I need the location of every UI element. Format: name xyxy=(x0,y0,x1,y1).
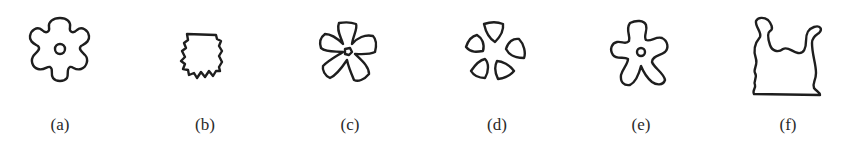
shape-a-rosette-icon xyxy=(27,15,93,87)
shape-e-wavy-star-icon xyxy=(608,18,676,94)
shape-c-flower-icon xyxy=(317,20,381,90)
shape-b-serrated-icon xyxy=(176,31,228,87)
label-b: (b) xyxy=(175,115,235,135)
label-e: (e) xyxy=(611,115,671,135)
shape-f-vessel-icon xyxy=(750,15,826,101)
shape-d-separated-petals-icon xyxy=(462,21,530,93)
label-d: (d) xyxy=(467,115,527,135)
label-a: (a) xyxy=(30,115,90,135)
label-f: (f) xyxy=(758,115,818,135)
label-c: (c) xyxy=(320,115,380,135)
shape-figure: (a) (b) (c) (d) (e) (f) xyxy=(0,0,860,144)
